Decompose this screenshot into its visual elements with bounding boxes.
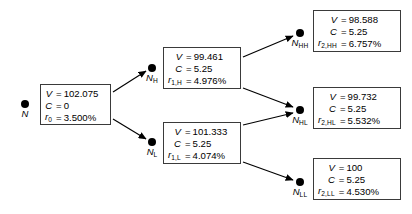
- value-row: C=5.25: [318, 174, 379, 186]
- value-row: r2,LL=4.530%: [318, 185, 379, 198]
- value-number: 101.333: [193, 126, 228, 138]
- value-symbol-base: V: [331, 14, 337, 25]
- value-symbol-base: C: [45, 100, 52, 111]
- value-box-nhh: V=98.588C=5.25r2,HH=6.757%: [313, 10, 401, 52]
- value-row: V=102.075: [45, 88, 98, 100]
- value-table: V=98.588C=5.25r2,HH=6.757%: [318, 14, 381, 50]
- value-equals: =: [339, 174, 347, 186]
- node-dot-n: [21, 100, 30, 109]
- value-symbol: r1,L: [168, 149, 185, 162]
- value-table: V=99.732C=5.25r2,HL=5.532%: [318, 91, 380, 127]
- value-number: 4.530%: [346, 185, 379, 198]
- value-number: 5.25: [194, 63, 227, 75]
- value-number: 5.25: [346, 174, 379, 186]
- value-number: 4.976%: [194, 74, 227, 87]
- value-equals: =: [185, 126, 193, 138]
- value-symbol-base: V: [330, 91, 336, 102]
- node-dot-nhh: [296, 29, 305, 38]
- node-label-nh: NH: [139, 72, 165, 83]
- value-table: V=102.075C=0r0=3.500%: [45, 88, 98, 124]
- value-box-nll: V=100C=5.25r2,LL=4.530%: [313, 158, 401, 200]
- value-number: 0: [64, 100, 99, 112]
- value-symbol: V: [318, 91, 340, 103]
- edge-n-to-nl: [113, 119, 146, 139]
- value-symbol: r2,HH: [318, 37, 341, 50]
- value-symbol-base: V: [176, 51, 182, 62]
- value-equals: =: [339, 185, 347, 198]
- value-symbol: V: [168, 51, 186, 63]
- value-symbol: V: [318, 14, 341, 26]
- value-table: V=100C=5.25r2,LL=4.530%: [318, 162, 379, 198]
- value-box-n: V=102.075C=0r0=3.500%: [40, 84, 111, 125]
- node-label-subscript: HH: [298, 42, 308, 49]
- edge-nl-to-nll: [243, 162, 293, 180]
- value-number: 99.461: [194, 51, 227, 63]
- node-label-base: N: [22, 108, 29, 119]
- node-dot-nll: [296, 178, 305, 187]
- node-label-nll: NLL: [287, 186, 313, 197]
- node-label-base: N: [292, 114, 299, 125]
- edge-nl-to-nhl: [243, 113, 293, 125]
- value-number: 99.732: [348, 91, 381, 103]
- node-label-subscript: H: [153, 77, 158, 84]
- edge-nh-to-nhl: [243, 88, 293, 107]
- value-number: 5.532%: [348, 114, 381, 127]
- value-symbol: V: [168, 126, 185, 138]
- value-row: V=100: [318, 162, 379, 174]
- node-dot-nh: [148, 64, 157, 73]
- node-label-nhh: NHH: [287, 37, 313, 48]
- value-equals: =: [186, 74, 194, 87]
- value-symbol-subscript: 2,LL: [321, 190, 335, 197]
- value-symbol-base: V: [46, 88, 52, 99]
- node-label-subscript: L: [154, 151, 158, 158]
- value-symbol-subscript: 0: [48, 116, 52, 123]
- node-label-nl: NL: [139, 146, 165, 157]
- value-row: V=98.588: [318, 14, 381, 26]
- value-table: V=99.461C=5.25r1,H=4.976%: [168, 51, 226, 87]
- value-number: 5.25: [193, 138, 228, 150]
- node-label-subscript: HL: [299, 119, 308, 126]
- value-symbol-base: V: [328, 162, 334, 173]
- value-equals: =: [341, 37, 349, 50]
- value-equals: =: [56, 111, 64, 124]
- value-symbol: V: [45, 88, 56, 100]
- value-number: 5.25: [348, 103, 381, 115]
- value-row: C=5.25: [318, 103, 380, 115]
- node-label-base: N: [146, 72, 153, 83]
- value-row: C=5.25: [168, 63, 226, 75]
- node-label-base: N: [293, 186, 300, 197]
- value-row: r1,L=4.074%: [168, 149, 227, 162]
- value-symbol: r2,LL: [318, 185, 339, 198]
- value-symbol-base: C: [328, 174, 335, 185]
- value-symbol: r1,H: [168, 74, 186, 87]
- value-number: 3.500%: [64, 111, 99, 124]
- value-row: V=101.333: [168, 126, 227, 138]
- value-equals: =: [340, 91, 348, 103]
- node-label-nhl: NHL: [287, 114, 313, 125]
- value-symbol-base: V: [175, 126, 181, 137]
- value-symbol-base: C: [175, 63, 182, 74]
- node-label-base: N: [147, 146, 154, 157]
- value-box-nh: V=99.461C=5.25r1,H=4.976%: [163, 47, 241, 89]
- value-equals: =: [56, 88, 64, 100]
- value-symbol: C: [168, 63, 186, 75]
- value-equals: =: [340, 114, 348, 127]
- value-number: 4.074%: [193, 149, 228, 162]
- value-symbol-subscript: 1,L: [171, 154, 181, 161]
- value-symbol: r0: [45, 111, 56, 124]
- value-number: 102.075: [64, 88, 99, 100]
- node-label-subscript: LL: [300, 191, 308, 198]
- value-equals: =: [186, 63, 194, 75]
- value-row: V=99.461: [168, 51, 226, 63]
- node-dot-nhl: [296, 106, 305, 115]
- value-symbol: C: [168, 138, 185, 150]
- value-row: r1,H=4.976%: [168, 74, 226, 87]
- edge-nh-to-nhh: [243, 36, 293, 57]
- value-equals: =: [186, 51, 194, 63]
- value-row: V=99.732: [318, 91, 380, 103]
- value-row: r2,HH=6.757%: [318, 37, 381, 50]
- value-number: 5.25: [349, 26, 382, 38]
- value-equals: =: [341, 26, 349, 38]
- value-number: 98.588: [349, 14, 382, 26]
- value-symbol-base: C: [329, 103, 336, 114]
